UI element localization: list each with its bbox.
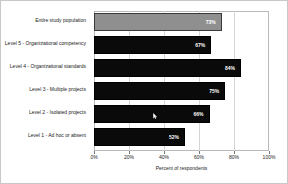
category-label-level-2: Level 2 - Isolated projects [29,103,86,121]
bar-level-1[interactable]: 52% [94,128,185,146]
category-axis-labels: Entire study population Level 5 - Organi… [1,11,90,151]
bar-level-5[interactable]: 67% [94,36,211,54]
bar-value-label: 66% [193,112,203,117]
category-label-level-4: Level 4 - Organizational standards [10,57,86,75]
category-label-level-5: Level 5 - Organizational competency [5,34,86,52]
bar-chart-figure: Entire study population Level 5 - Organi… [0,0,288,184]
x-tick-label-40: 40% [159,155,169,160]
x-tick-label-0: 0% [90,155,97,160]
bar-level-2[interactable]: 66% [94,105,210,123]
category-label-entire-study-population: Entire study population [35,11,86,29]
bar-entire-study-population[interactable]: 73% [94,13,222,31]
x-axis-title: Percent of respondents [94,166,269,171]
x-tick-label-60: 60% [194,155,204,160]
x-tick-label-20: 20% [124,155,134,160]
x-tick-label-100: 100% [263,155,276,160]
bar-value-label: 67% [195,43,205,48]
bar-level-4[interactable]: 84% [94,59,241,77]
plot-area: 73% 67% 84% 75% 66% 52% [94,11,269,151]
bar-value-label: 75% [209,89,219,94]
bar-value-label: 84% [225,66,235,71]
category-label-level-3: Level 3 - Multiple projects [29,80,86,98]
x-axis: 0% 20% 40% 60% 80% 100% [94,151,269,165]
plot-frame-right [268,11,269,151]
bar-value-label: 52% [169,135,179,140]
plot-frame-top [94,11,269,12]
gridline-60 [199,11,200,151]
x-tick-label-80: 80% [229,155,239,160]
gridline-80 [234,11,235,151]
category-label-level-1: Level 1 - Ad hoc or absent [28,126,86,144]
bar-value-label: 73% [206,20,216,25]
bar-level-3[interactable]: 75% [94,82,225,100]
